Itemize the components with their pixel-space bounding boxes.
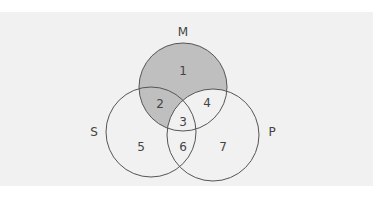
region-label-2: 2 xyxy=(156,97,164,111)
venn-diagram: M S P 1 2 3 4 5 6 7 xyxy=(0,0,375,200)
set-label-s: S xyxy=(90,125,98,139)
region-label-5: 5 xyxy=(137,140,145,154)
set-label-p: P xyxy=(268,125,275,139)
circle-p xyxy=(167,89,259,181)
region-label-1: 1 xyxy=(179,64,187,78)
region-label-4: 4 xyxy=(203,96,211,110)
region-label-6: 6 xyxy=(179,140,187,154)
region-label-3: 3 xyxy=(179,115,187,129)
set-label-m: M xyxy=(178,25,188,39)
region-label-7: 7 xyxy=(219,140,227,154)
